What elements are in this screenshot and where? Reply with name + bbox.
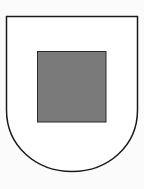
shield-figure (0, 0, 144, 189)
central-square (38, 52, 107, 123)
